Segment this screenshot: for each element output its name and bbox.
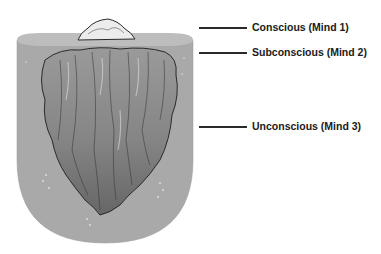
leader-line-conscious	[199, 27, 247, 29]
label-subconscious: Subconscious (Mind 2)	[252, 46, 367, 58]
leader-line-unconscious	[199, 126, 247, 128]
label-unconscious: Unconscious (Mind 3)	[252, 120, 361, 132]
leader-line-subconscious	[199, 52, 247, 54]
label-conscious: Conscious (Mind 1)	[252, 21, 349, 33]
